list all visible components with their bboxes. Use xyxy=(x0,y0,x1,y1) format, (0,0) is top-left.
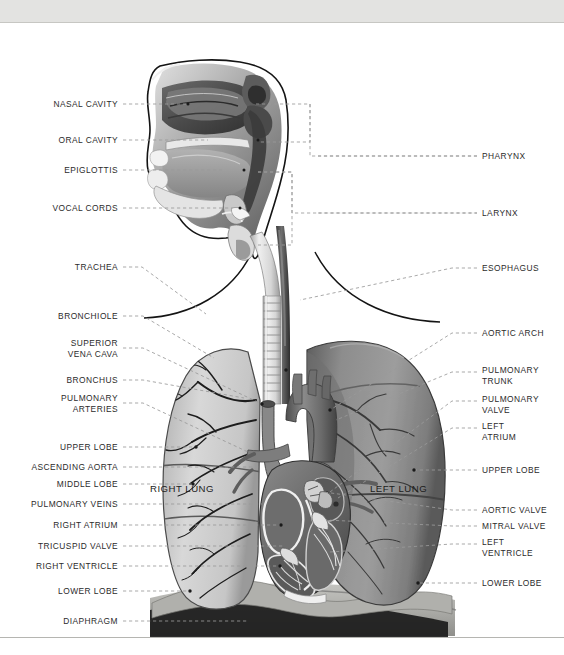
label-pulmonary-arteries: PULMONARYARTERIES xyxy=(61,393,118,414)
label-line: MITRAL VALVE xyxy=(482,521,546,532)
label-line: PULMONARY xyxy=(482,365,539,376)
label-bronchiole: BRONCHIOLE xyxy=(58,311,118,322)
label-line: ARTERIES xyxy=(61,403,118,414)
label-line: EPIGLOTTIS xyxy=(64,165,118,176)
label-line: DIAPHRAGM xyxy=(63,616,118,627)
label-right-atrium: RIGHT ATRIUM xyxy=(53,520,118,531)
label-line: ATRIUM xyxy=(482,431,516,442)
bracket-leaders xyxy=(256,104,477,245)
label-ascending-aorta: ASCENDING AORTA xyxy=(32,462,118,473)
label-line: VENTRICLE xyxy=(482,547,533,558)
label-right-lung: RIGHT LUNG xyxy=(150,483,214,494)
label-line: ASCENDING AORTA xyxy=(32,462,118,473)
label-left-ventricle: LEFTVENTRICLE xyxy=(482,537,533,558)
label-trachea: TRACHEA xyxy=(75,262,118,273)
label-line: VOCAL CORDS xyxy=(52,203,118,214)
label-line: BRONCHIOLE xyxy=(58,311,118,322)
label-line: SUPERIOR xyxy=(68,338,118,349)
label-pulmonary-veins: PULMONARY VEINS xyxy=(31,499,118,510)
label-left-atrium: LEFTATRIUM xyxy=(482,421,516,442)
label-pulmonary-valve: PULMONARYVALVE xyxy=(482,394,539,415)
label-vocal-cords: VOCAL CORDS xyxy=(52,203,118,214)
label-diaphragm: DIAPHRAGM xyxy=(63,616,118,627)
label-aortic-arch: AORTIC ARCH xyxy=(482,328,544,339)
label-right-ventricle: RIGHT VENTRICLE xyxy=(36,561,118,572)
label-pulmonary-trunk: PULMONARYTRUNK xyxy=(482,365,539,386)
label-esophagus: ESOPHAGUS xyxy=(482,263,539,274)
label-tricuspid-valve: TRICUSPID VALVE xyxy=(38,541,118,552)
label-line: TRICUSPID VALVE xyxy=(38,541,118,552)
label-line: RIGHT ATRIUM xyxy=(53,520,118,531)
label-line: LOWER LOBE xyxy=(58,586,118,597)
label-line: UPPER LOBE xyxy=(60,442,118,453)
label-line: PHARYNX xyxy=(482,151,526,162)
label-bronchus: BRONCHUS xyxy=(66,375,118,386)
head-sagittal-section xyxy=(147,60,288,260)
label-line: AORTIC VALVE xyxy=(482,505,547,516)
heart xyxy=(260,461,351,604)
label-lower-lobe-left: LOWER LOBE xyxy=(482,578,542,589)
label-middle-lobe: MIDDLE LOBE xyxy=(57,479,118,490)
label-nasal-cavity: NASAL CAVITY xyxy=(53,99,118,110)
label-superior-vena-cava: SUPERIORVENA CAVA xyxy=(68,338,118,359)
label-line: TRUNK xyxy=(482,375,539,386)
body-outline xyxy=(144,252,440,322)
label-line: PULMONARY VEINS xyxy=(31,499,118,510)
label-line: NASAL CAVITY xyxy=(53,99,118,110)
label-line: PULMONARY xyxy=(61,393,118,404)
label-pharynx: PHARYNX xyxy=(482,151,526,162)
label-line: VALVE xyxy=(482,404,539,415)
label-left-lung: LEFT LUNG xyxy=(370,483,427,494)
label-larynx: LARYNX xyxy=(482,208,518,219)
label-line: LARYNX xyxy=(482,208,518,219)
label-line: LEFT xyxy=(482,537,533,548)
anatomy-figure-page: NASAL CAVITYORAL CAVITYEPIGLOTTISVOCAL C… xyxy=(0,0,564,655)
label-lower-lobe-right: LOWER LOBE xyxy=(58,586,118,597)
label-line: VENA CAVA xyxy=(68,348,118,359)
label-line: RIGHT VENTRICLE xyxy=(36,561,118,572)
bottom-divider-rule xyxy=(0,637,564,638)
label-upper-lobe-left: UPPER LOBE xyxy=(482,465,540,476)
label-line: ESOPHAGUS xyxy=(482,263,539,274)
label-line: MIDDLE LOBE xyxy=(57,479,118,490)
label-line: UPPER LOBE xyxy=(482,465,540,476)
label-line: BRONCHUS xyxy=(66,375,118,386)
label-oral-cavity: ORAL CAVITY xyxy=(59,135,118,146)
label-line: PULMONARY xyxy=(482,394,539,405)
label-mitral-valve: MITRAL VALVE xyxy=(482,521,546,532)
label-aortic-valve: AORTIC VALVE xyxy=(482,505,547,516)
label-upper-lobe-right: UPPER LOBE xyxy=(60,442,118,453)
right-lung xyxy=(158,349,262,609)
label-line: LEFT xyxy=(482,421,516,432)
label-line: LOWER LOBE xyxy=(482,578,542,589)
label-line: ORAL CAVITY xyxy=(59,135,118,146)
label-line: AORTIC ARCH xyxy=(482,328,544,339)
label-line: TRACHEA xyxy=(75,262,118,273)
right-atrium-chamber xyxy=(263,490,303,554)
label-epiglottis: EPIGLOTTIS xyxy=(64,165,118,176)
